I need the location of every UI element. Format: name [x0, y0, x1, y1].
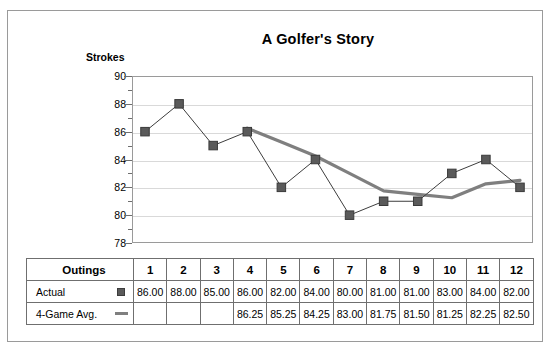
- table-cell: 81.00: [400, 281, 433, 303]
- table-cell: 82.00: [500, 281, 533, 303]
- table-column-header: 6: [300, 259, 333, 281]
- table-cell: 88.00: [167, 281, 200, 303]
- table-row-label: 4-Game Avg.: [27, 303, 134, 325]
- line-marker-icon: [115, 312, 128, 315]
- y-axis-tick-label: 84: [104, 155, 126, 165]
- y-axis-major-tick: [124, 104, 132, 105]
- data-point-marker[interactable]: [277, 183, 286, 192]
- y-axis-major-tick: [124, 76, 132, 77]
- table-cell: 84.00: [466, 281, 499, 303]
- table-column-header: 7: [333, 259, 366, 281]
- data-point-marker[interactable]: [311, 155, 320, 164]
- table-cell: 82.25: [466, 303, 499, 325]
- table-column-header: 2: [167, 259, 200, 281]
- y-axis-major-tick: [124, 187, 132, 188]
- table-cell: 86.00: [233, 281, 266, 303]
- table-cell: 84.00: [300, 281, 333, 303]
- table-cell: 86.00: [134, 281, 167, 303]
- data-table: Outings123456789101112Actual86.0088.0085…: [26, 258, 534, 325]
- table-cell: [200, 303, 233, 325]
- table-cell: 82.50: [500, 303, 533, 325]
- table-cell: [167, 303, 200, 325]
- table-cell: 84.25: [300, 303, 333, 325]
- data-point-marker[interactable]: [379, 197, 388, 206]
- data-point-marker[interactable]: [175, 100, 184, 109]
- data-point-marker[interactable]: [345, 211, 354, 220]
- y-axis-major-tick: [124, 215, 132, 216]
- table-row: Actual86.0088.0085.0086.0082.0084.0080.0…: [27, 281, 534, 303]
- table-cell: 85.25: [267, 303, 300, 325]
- table-row: 4-Game Avg.86.2585.2584.2583.0081.7581.5…: [27, 303, 534, 325]
- table-column-header: 11: [466, 259, 499, 281]
- page-title: A Golfer's Story: [168, 31, 468, 47]
- table-cell: 83.00: [333, 303, 366, 325]
- chart-frame: A Golfer's Story Strokes 90888684828078 …: [7, 10, 543, 342]
- table-cell: 85.00: [200, 281, 233, 303]
- data-point-marker[interactable]: [413, 197, 422, 206]
- table-cell: 81.00: [367, 281, 400, 303]
- table-column-header: 1: [134, 259, 167, 281]
- y-axis-ticks: [124, 76, 132, 243]
- table-column-header: 12: [500, 259, 533, 281]
- table-column-header: 5: [267, 259, 300, 281]
- table-column-header: 10: [433, 259, 466, 281]
- y-axis-tick-label: 88: [104, 99, 126, 109]
- y-axis-major-tick: [124, 243, 132, 244]
- square-marker-icon: [117, 288, 125, 296]
- table-column-header: 3: [200, 259, 233, 281]
- y-axis-tick-label: 78: [104, 238, 126, 248]
- data-point-marker[interactable]: [482, 155, 491, 164]
- y-axis-major-tick: [124, 160, 132, 161]
- table-cell: 86.25: [233, 303, 266, 325]
- y-axis-tick-label: 90: [104, 71, 126, 81]
- y-axis-tick-label: 86: [104, 127, 126, 137]
- table-row-label: Actual: [27, 281, 134, 303]
- y-axis-title: Strokes: [86, 51, 125, 63]
- table-column-header: 4: [233, 259, 266, 281]
- table-cell: [134, 303, 167, 325]
- table-header-row: Outings123456789101112: [27, 259, 534, 281]
- data-point-marker[interactable]: [516, 183, 525, 192]
- y-axis-major-tick: [124, 132, 132, 133]
- table-cell: 81.75: [367, 303, 400, 325]
- y-axis-tick-label: 82: [104, 182, 126, 192]
- table-column-header: 9: [400, 259, 433, 281]
- data-point-marker[interactable]: [448, 169, 457, 178]
- table-cell: 83.00: [433, 281, 466, 303]
- actual-series-line: [145, 104, 520, 215]
- data-point-marker[interactable]: [141, 127, 150, 136]
- plot-area-wrapper: [132, 76, 533, 243]
- y-axis-tick-label: 80: [104, 210, 126, 220]
- average-series-line: [247, 128, 520, 198]
- data-point-marker[interactable]: [243, 127, 252, 136]
- series-layer: [132, 76, 533, 243]
- data-point-marker[interactable]: [209, 141, 218, 150]
- table-cell: 81.50: [400, 303, 433, 325]
- table-cell: 82.00: [267, 281, 300, 303]
- table-header-label: Outings: [27, 259, 134, 281]
- table-cell: 81.25: [433, 303, 466, 325]
- table-cell: 80.00: [333, 281, 366, 303]
- table-column-header: 8: [367, 259, 400, 281]
